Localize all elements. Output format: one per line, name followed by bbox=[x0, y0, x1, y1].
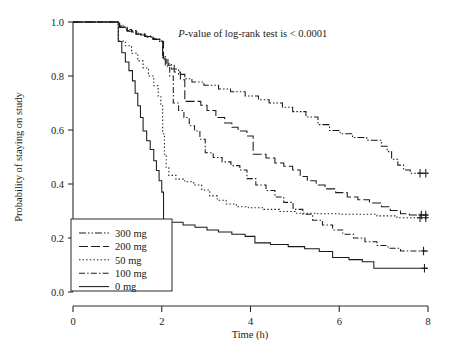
y-axis-title: Probability of staying on study bbox=[13, 92, 24, 222]
figure-background bbox=[0, 0, 456, 355]
x-tick-label-0: 0 bbox=[70, 316, 75, 327]
y-tick-label-3: 0.6 bbox=[51, 125, 64, 136]
y-tick-label-2: 0.4 bbox=[51, 179, 65, 190]
y-tick-label-4: 0.8 bbox=[51, 71, 64, 82]
survival-chart: 0.00.20.40.60.81.0 Probability of stayin… bbox=[0, 0, 456, 355]
kaplan-meier-figure: 0.00.20.40.60.81.0 Probability of stayin… bbox=[0, 0, 456, 355]
legend-label-50-mg: 50 mg bbox=[115, 255, 142, 266]
y-tick-label-5: 1.0 bbox=[51, 17, 64, 28]
legend-label-100-mg: 100 mg bbox=[115, 268, 148, 279]
y-tick-label-0: 0.0 bbox=[51, 287, 64, 298]
legend-label-200-mg: 200 mg bbox=[115, 241, 148, 252]
x-tick-label-1: 2 bbox=[159, 316, 164, 327]
pvalue-annotation: P-value of log-rank test is < 0.0001 bbox=[177, 28, 327, 39]
x-tick-label-4: 8 bbox=[425, 316, 430, 327]
x-axis-title: Time (h) bbox=[232, 329, 269, 341]
legend: 300 mg200 mg50 mg100 mg0 mg bbox=[71, 219, 172, 292]
x-tick-label-3: 6 bbox=[337, 316, 342, 327]
legend-label-0-mg: 0 mg bbox=[115, 281, 137, 292]
y-tick-label-1: 0.2 bbox=[51, 233, 64, 244]
legend-label-300-mg: 300 mg bbox=[115, 228, 148, 239]
x-tick-label-2: 4 bbox=[248, 316, 254, 327]
